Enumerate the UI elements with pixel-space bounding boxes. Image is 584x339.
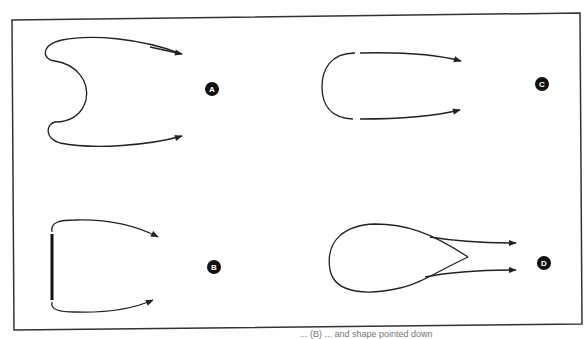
label-a-text: A <box>209 85 215 94</box>
figure-frame <box>12 13 582 330</box>
diagram-figure: A B C D <box>0 0 584 339</box>
label-a: A <box>205 82 219 96</box>
panel-c <box>322 53 461 119</box>
label-c-text: C <box>539 80 545 89</box>
label-b-text: B <box>211 263 217 272</box>
panel-d <box>329 224 516 292</box>
label-b: B <box>207 260 221 274</box>
panel-a <box>45 37 182 146</box>
figure-caption: ... (B) ... and shape pointed down <box>300 329 584 339</box>
panel-b <box>52 220 158 312</box>
label-d-text: D <box>541 259 547 268</box>
label-c: C <box>535 77 549 91</box>
label-d: D <box>537 256 551 270</box>
